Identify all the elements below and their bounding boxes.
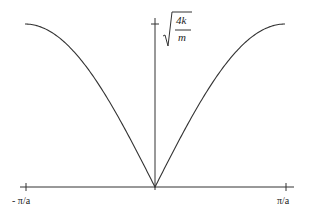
axes — [20, 18, 294, 191]
x-tick-label-max: π/a — [277, 195, 289, 206]
dispersion-chart — [0, 0, 309, 215]
y-max-denominator: m — [178, 31, 186, 43]
x-tick-label-min: - π/a — [12, 195, 30, 206]
y-max-numerator: 4k — [176, 14, 186, 26]
